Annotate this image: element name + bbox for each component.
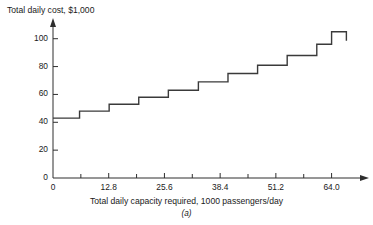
y-tick-label: 40 (14, 116, 48, 126)
x-tick-label: 38.4 (200, 182, 240, 192)
y-tick-label: 20 (14, 144, 48, 154)
x-tick-label: 12.8 (89, 182, 129, 192)
figure-container: Total daily cost, $1,000 020406080100 01… (0, 0, 373, 225)
y-tick-label: 60 (14, 88, 48, 98)
x-tick-label: 25.6 (144, 182, 184, 192)
y-tick-label: 100 (14, 33, 48, 43)
y-tick-label: 80 (14, 61, 48, 71)
x-tick-label: 0 (33, 182, 73, 192)
x-tick-label: 51.2 (256, 182, 296, 192)
x-axis-label: Total daily capacity required, 1000 pass… (0, 196, 373, 206)
figure-caption: (a) (0, 209, 373, 218)
x-tick-label: 64.0 (312, 182, 352, 192)
y-tick-label: 0 (14, 172, 48, 182)
